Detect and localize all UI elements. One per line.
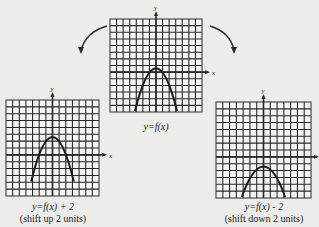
x-axis-arrow-icon [205,70,210,74]
transformation-diagram: yxyxy [0,0,319,227]
graph-shift-up: yx [6,85,113,196]
x-axis-label: x [211,69,216,77]
equation-shift-up: y=f(x) + 2 [32,201,74,212]
equation-original: y=f(x) [143,121,168,132]
arrowhead-icon [78,47,84,54]
caption-shift-down: y=f(x) - 2 (shift down 2 units) [210,201,318,225]
x-axis-arrow-icon [102,153,107,157]
arrow-to-shift-down [210,26,237,54]
x-axis-arrow-icon [314,155,319,159]
caption-shift-up: y=f(x) + 2 (shift up 2 units) [0,201,106,225]
arrowhead-icon [231,47,237,54]
note-shift-up: (shift up 2 units) [20,213,86,224]
arrow-to-shift-up [78,26,107,54]
y-axis-label: y [50,85,55,93]
caption-original: y=f(x) [110,121,202,133]
note-shift-down: (shift down 2 units) [225,213,304,224]
graph-shift-down: y [216,87,319,198]
x-axis-label: x [108,152,113,160]
equation-shift-down: y=f(x) - 2 [245,201,283,212]
y-axis-label: y [153,4,158,12]
y-axis-label: y [261,87,266,95]
graph-original: yx [110,4,216,112]
